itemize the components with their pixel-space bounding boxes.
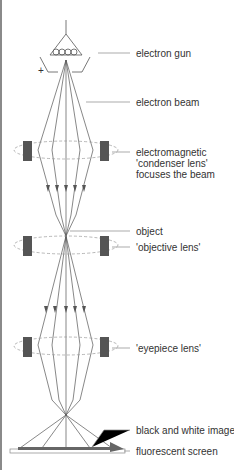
label-image: black and white image <box>136 425 234 436</box>
fluorescent-screen-icon <box>10 442 125 453</box>
label-condenser-line1: electromagnetic <box>136 147 207 158</box>
label-electron-gun: electron gun <box>136 48 191 59</box>
label-objective-lens: 'objective lens' <box>136 242 200 253</box>
label-object: object <box>136 226 163 237</box>
electron-microscope-diagram: + <box>0 0 234 470</box>
label-screen: fluorescent screen <box>136 446 218 457</box>
anode-plus-symbol: + <box>38 65 44 76</box>
label-condenser-line3: focuses the beam <box>136 169 215 180</box>
electron-beam-icon <box>20 60 112 448</box>
label-condenser-line2: 'condenser lens' <box>136 158 208 169</box>
arrow-icons <box>44 185 86 313</box>
label-electron-beam: electron beam <box>136 97 199 108</box>
label-eyepiece-lens: 'eyepiece lens' <box>136 343 201 354</box>
